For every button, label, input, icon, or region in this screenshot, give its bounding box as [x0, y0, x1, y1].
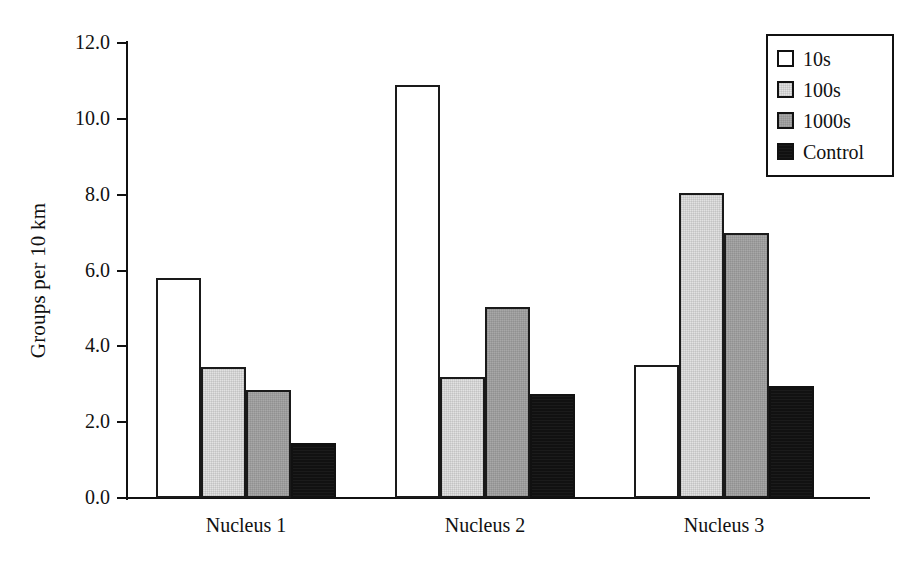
y-axis-tick-label: 10.0	[40, 108, 110, 128]
y-axis-tick-label: 2.0	[40, 411, 110, 431]
x-axis-category-label: Nucleus 3	[609, 514, 839, 537]
bar	[395, 85, 440, 498]
legend-swatch-icon	[777, 81, 794, 98]
bar	[530, 394, 575, 498]
y-axis-title: Groups per 10 km	[26, 131, 51, 431]
bar	[769, 386, 814, 498]
legend-item-label: 10s	[803, 49, 831, 69]
legend-item[interactable]: 10s	[777, 43, 883, 74]
bar	[724, 233, 769, 498]
x-axis-category-label: Nucleus 1	[131, 514, 361, 537]
legend-item-label: 1000s	[803, 111, 851, 131]
y-axis-tick-label: 12.0	[40, 32, 110, 52]
bar	[156, 278, 201, 498]
x-axis-category-label: Nucleus 2	[370, 514, 600, 537]
y-axis-tick-label: 4.0	[40, 335, 110, 355]
bar	[201, 367, 246, 498]
plot-area	[126, 43, 870, 498]
bar	[291, 443, 336, 498]
legend-swatch-icon	[777, 112, 794, 129]
y-axis-tick-label: 8.0	[40, 184, 110, 204]
bar	[634, 365, 679, 498]
legend-item[interactable]: 100s	[777, 74, 883, 105]
legend-item[interactable]: 1000s	[777, 105, 883, 136]
bar	[440, 377, 485, 498]
bar	[485, 307, 530, 498]
legend-item[interactable]: Control	[777, 136, 883, 167]
legend: 10s100s1000sControl	[766, 34, 894, 177]
legend-item-label: 100s	[803, 80, 841, 100]
legend-swatch-icon	[777, 50, 794, 67]
bar	[679, 193, 724, 498]
bar	[246, 390, 291, 498]
y-axis-tick-label: 6.0	[40, 260, 110, 280]
bar-chart: Groups per 10 km 0.02.04.06.08.010.012.0…	[0, 0, 912, 577]
legend-item-label: Control	[803, 142, 864, 162]
y-axis-tick-label: 0.0	[40, 487, 110, 507]
legend-swatch-icon	[777, 143, 794, 160]
